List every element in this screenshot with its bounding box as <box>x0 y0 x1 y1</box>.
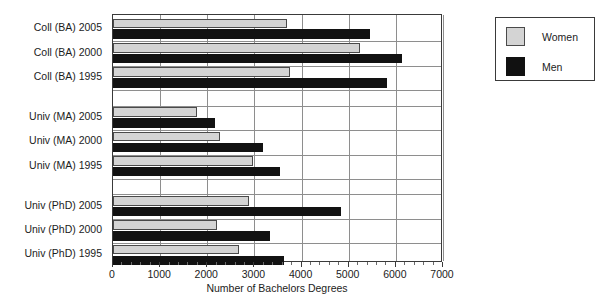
x-tick-minor <box>235 262 236 265</box>
bar-women <box>113 67 290 77</box>
x-tick-minor <box>433 262 434 265</box>
gridline-horizontal <box>113 179 441 180</box>
x-tick-minor <box>291 262 292 265</box>
x-tick-minor <box>216 262 217 265</box>
plot-area <box>112 14 442 262</box>
x-tick-mark <box>395 262 396 267</box>
bar-women <box>113 132 220 142</box>
x-tick-mark <box>253 262 254 267</box>
bar-women <box>113 156 253 166</box>
x-tick-minor <box>140 262 141 265</box>
x-tick-label: 6000 <box>383 268 406 280</box>
x-tick-label: 0 <box>109 268 115 280</box>
legend-label: Women <box>542 31 578 43</box>
x-tick-minor <box>187 262 188 265</box>
gridline-horizontal <box>113 194 441 195</box>
x-tick-label: 1000 <box>147 268 170 280</box>
bar-women <box>113 19 287 29</box>
y-tick-label: Univ (MA) 2000 <box>0 135 107 146</box>
gridline-horizontal <box>113 90 441 91</box>
x-tick-minor <box>197 262 198 265</box>
x-tick-minor <box>423 262 424 265</box>
x-tick-minor <box>225 262 226 265</box>
bar-men <box>113 143 263 153</box>
bar-women <box>113 220 217 230</box>
x-tick-minor <box>272 262 273 265</box>
x-tick-minor <box>414 262 415 265</box>
bar-men <box>113 167 280 177</box>
bar-women <box>113 245 239 255</box>
y-tick-label: Coll (BA) 2005 <box>0 22 107 33</box>
x-tick-minor <box>329 262 330 265</box>
x-tick-minor <box>376 262 377 265</box>
x-tick-minor <box>319 262 320 265</box>
y-tick-label: Univ (PhD) 1995 <box>0 248 107 259</box>
x-tick-minor <box>244 262 245 265</box>
legend-item: Men <box>506 57 562 76</box>
y-tick-label: Univ (MA) 1995 <box>0 160 107 171</box>
x-tick-label: 5000 <box>336 268 359 280</box>
gridline-horizontal <box>113 41 441 42</box>
bar-men <box>113 231 270 241</box>
legend-swatch-women <box>506 27 525 46</box>
x-axis-ticks: 01000200030004000500060007000 <box>112 262 442 282</box>
bar-women <box>113 107 197 117</box>
bar-women <box>113 43 360 53</box>
bar-men <box>113 207 341 217</box>
x-tick-mark <box>301 262 302 267</box>
x-tick-minor <box>169 262 170 265</box>
x-tick-mark <box>159 262 160 267</box>
bar-chart-figure: Coll (BA) 2005Coll (BA) 2000Coll (BA) 19… <box>0 0 611 305</box>
x-tick-label: 3000 <box>242 268 265 280</box>
y-tick-label: Coll (BA) 2000 <box>0 47 107 58</box>
bar-men <box>113 78 387 88</box>
y-tick-label: Coll (BA) 1995 <box>0 71 107 82</box>
bar-men <box>113 118 215 128</box>
x-axis-title: Number of Bachelors Degrees <box>112 282 442 294</box>
x-tick-minor <box>338 262 339 265</box>
bar-men <box>113 54 402 64</box>
x-tick-minor <box>178 262 179 265</box>
gridline-vertical <box>443 15 444 261</box>
x-tick-mark <box>442 262 443 267</box>
y-tick-label: Univ (PhD) 2005 <box>0 200 107 211</box>
x-tick-minor <box>357 262 358 265</box>
x-tick-minor <box>150 262 151 265</box>
gridline-vertical <box>396 15 397 261</box>
legend-swatch-men <box>506 57 525 76</box>
x-tick-minor <box>310 262 311 265</box>
x-tick-label: 2000 <box>195 268 218 280</box>
x-tick-minor <box>131 262 132 265</box>
legend: WomenMen <box>495 17 595 81</box>
x-tick-label: 4000 <box>289 268 312 280</box>
legend-label: Men <box>542 61 562 73</box>
x-tick-minor <box>121 262 122 265</box>
bar-men <box>113 29 370 39</box>
x-tick-mark <box>112 262 113 267</box>
legend-item: Women <box>506 27 578 46</box>
x-tick-minor <box>367 262 368 265</box>
x-tick-minor <box>282 262 283 265</box>
x-tick-minor <box>385 262 386 265</box>
x-tick-mark <box>206 262 207 267</box>
x-tick-minor <box>263 262 264 265</box>
x-tick-mark <box>348 262 349 267</box>
x-tick-label: 7000 <box>430 268 453 280</box>
bar-women <box>113 196 249 206</box>
y-tick-label: Univ (PhD) 2000 <box>0 224 107 235</box>
x-tick-minor <box>404 262 405 265</box>
y-axis-labels: Coll (BA) 2005Coll (BA) 2000Coll (BA) 19… <box>0 14 107 262</box>
y-tick-label: Univ (MA) 2005 <box>0 111 107 122</box>
